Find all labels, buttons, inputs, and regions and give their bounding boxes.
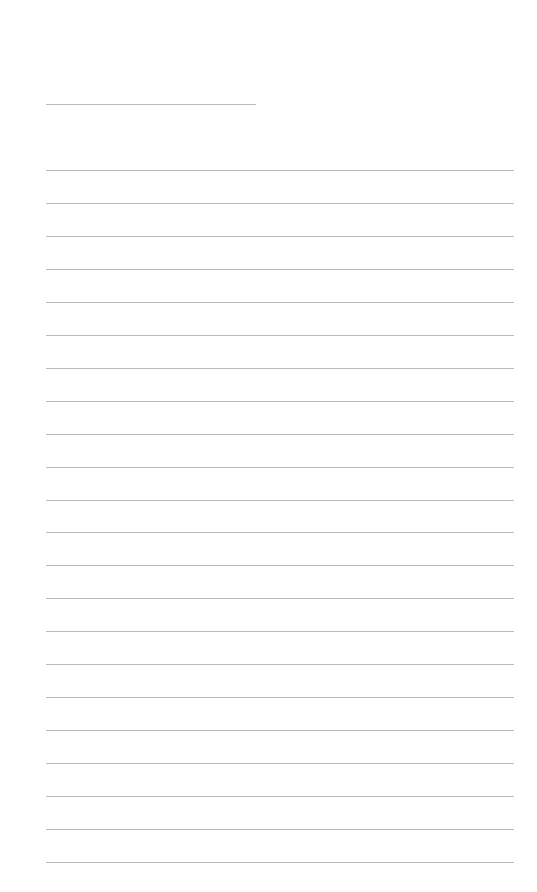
writing-line: [46, 829, 514, 830]
writing-line: [46, 434, 514, 435]
writing-line: [46, 598, 514, 599]
writing-line: [46, 631, 514, 632]
writing-line: [46, 532, 514, 533]
writing-line: [46, 664, 514, 665]
writing-line: [46, 565, 514, 566]
writing-line: [46, 697, 514, 698]
writing-line: [46, 467, 514, 468]
writing-line: [46, 730, 514, 731]
title-line: [46, 104, 256, 105]
writing-line: [46, 170, 514, 171]
writing-line: [46, 862, 514, 863]
writing-line: [46, 763, 514, 764]
writing-line: [46, 500, 514, 501]
lined-page: [0, 0, 537, 892]
writing-line: [46, 368, 514, 369]
writing-line: [46, 236, 514, 237]
writing-line: [46, 335, 514, 336]
writing-line: [46, 269, 514, 270]
writing-line: [46, 796, 514, 797]
writing-line: [46, 401, 514, 402]
writing-line: [46, 302, 514, 303]
writing-line: [46, 203, 514, 204]
